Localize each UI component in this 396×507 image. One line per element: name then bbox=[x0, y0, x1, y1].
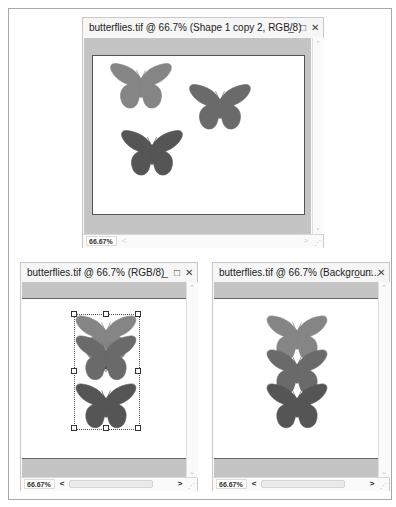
vertical-scrollbar[interactable]: ⌃ ⌄ bbox=[186, 282, 198, 478]
butterfly-dark-icon[interactable] bbox=[119, 128, 185, 180]
vertical-scrollbar[interactable]: ⌃ ⌄ bbox=[312, 38, 324, 234]
scroll-left-icon[interactable]: < bbox=[57, 479, 67, 489]
transform-handle[interactable] bbox=[135, 425, 141, 431]
transform-handle[interactable] bbox=[103, 425, 109, 431]
scroll-down-icon[interactable]: ⌄ bbox=[379, 468, 389, 476]
transform-handle[interactable] bbox=[135, 311, 141, 317]
status-bar: 66.67% < > ⋰ bbox=[213, 477, 389, 491]
horizontal-scroll-thumb[interactable] bbox=[261, 480, 345, 488]
maximize-button[interactable]: □ bbox=[298, 18, 308, 37]
resize-grip-icon[interactable]: ⋰ bbox=[314, 239, 322, 247]
resize-grip-icon[interactable]: ⋰ bbox=[380, 482, 388, 490]
close-button[interactable]: ✕ bbox=[184, 263, 194, 282]
transform-handle[interactable] bbox=[71, 311, 77, 317]
window-controls: _□✕ bbox=[158, 263, 194, 282]
document-canvas[interactable]: ✧ bbox=[22, 299, 186, 458]
close-button[interactable]: ✕ bbox=[376, 263, 386, 282]
transform-handle[interactable] bbox=[71, 368, 77, 374]
butterfly-mid-icon[interactable] bbox=[187, 82, 253, 134]
document-canvas[interactable] bbox=[214, 299, 378, 458]
window-title: butterflies.tif @ 66.7% (RGB/8) bbox=[27, 267, 164, 278]
window-controls: _□✕ bbox=[350, 263, 386, 282]
scroll-up-icon[interactable]: ⌃ bbox=[187, 284, 197, 292]
document-canvas[interactable] bbox=[92, 55, 305, 215]
pasteboard-top bbox=[214, 282, 378, 299]
scroll-right-icon[interactable]: > bbox=[301, 236, 311, 246]
minimize-button[interactable]: _ bbox=[286, 18, 296, 37]
maximize-button[interactable]: □ bbox=[364, 263, 374, 282]
window-title: butterflies.tif @ 66.7% (Shape 1 copy 2,… bbox=[89, 22, 301, 33]
reference-point-icon[interactable]: ✧ bbox=[101, 366, 110, 375]
transform-handle[interactable] bbox=[71, 425, 77, 431]
document-window-top: butterflies.tif @ 66.7% (Shape 1 copy 2,… bbox=[82, 17, 324, 248]
minimize-button[interactable]: _ bbox=[352, 263, 362, 282]
scroll-left-icon[interactable]: < bbox=[119, 236, 129, 246]
scroll-right-icon[interactable]: > bbox=[367, 479, 377, 489]
butterfly-dark-icon[interactable] bbox=[265, 381, 329, 433]
status-bar: 66.67% < > ⋰ bbox=[21, 477, 197, 491]
vertical-scrollbar[interactable]: ⌃ ⌄ bbox=[378, 282, 390, 478]
scroll-down-icon[interactable]: ⌄ bbox=[187, 468, 197, 476]
zoom-level-field[interactable]: 66.67% bbox=[216, 479, 247, 489]
zoom-level-field[interactable]: 66.67% bbox=[24, 479, 55, 489]
scroll-down-icon[interactable]: ⌄ bbox=[313, 224, 323, 232]
pasteboard-bottom bbox=[214, 458, 378, 478]
scroll-up-icon[interactable]: ⌃ bbox=[379, 284, 389, 292]
document-window-bottom-left: butterflies.tif @ 66.7% (RGB/8) _□✕ ✧ ⌃ … bbox=[20, 262, 198, 491]
pasteboard-bottom bbox=[22, 458, 186, 478]
minimize-button[interactable]: _ bbox=[160, 263, 170, 282]
transform-handle[interactable] bbox=[103, 311, 109, 317]
maximize-button[interactable]: □ bbox=[172, 263, 182, 282]
butterfly-light-icon[interactable] bbox=[108, 61, 174, 113]
pasteboard-top bbox=[22, 282, 186, 299]
resize-grip-icon[interactable]: ⋰ bbox=[188, 482, 196, 490]
close-button[interactable]: ✕ bbox=[310, 18, 320, 37]
scroll-left-icon[interactable]: < bbox=[249, 479, 259, 489]
scroll-up-icon[interactable]: ⌃ bbox=[313, 40, 323, 48]
transform-handle[interactable] bbox=[135, 368, 141, 374]
document-window-bottom-right: butterflies.tif @ 66.7% (Backgroun... _□… bbox=[212, 262, 390, 491]
scroll-right-icon[interactable]: > bbox=[175, 479, 185, 489]
status-bar: 66.67% < > ⋰ bbox=[83, 234, 323, 248]
zoom-level-field[interactable]: 66.67% bbox=[86, 236, 117, 246]
horizontal-scroll-thumb[interactable] bbox=[69, 480, 153, 488]
window-controls: _□✕ bbox=[284, 18, 320, 37]
